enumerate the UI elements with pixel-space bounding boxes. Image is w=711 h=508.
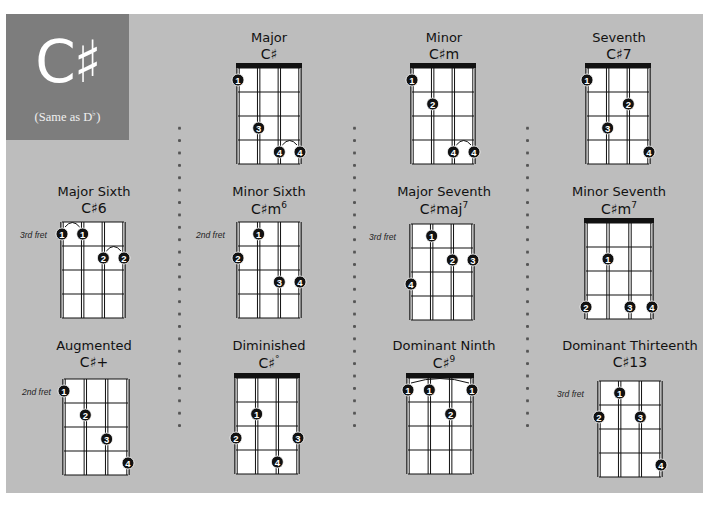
finger-number: 1 [235,75,241,86]
finger-number: 4 [297,147,303,158]
chord-name: Seventh [592,30,646,45]
chord-name: Dominant Thirteenth [562,338,698,353]
chord-symbol: C♯+ [80,354,108,370]
chord-name: Major [251,30,287,45]
finger-number: 4 [658,460,664,471]
fretboard: 1234 [582,63,654,169]
finger-number: 3 [638,412,643,423]
finger-number: 1 [59,229,65,240]
key-title: C♯ [6,32,129,92]
chord-name: Diminished [232,338,305,353]
column-divider-2 [353,122,356,436]
finger-number: 4 [471,147,477,158]
column-divider-1 [178,122,181,436]
finger-number: 1 [617,388,623,399]
fret-position-label: 2nd fret [196,230,225,240]
key-title-box: C♯ (Same as D♭) [6,14,129,140]
finger-number: 1 [584,75,590,86]
chord-name: Major Sixth [57,184,130,199]
finger-number: 4 [125,458,131,469]
fret-position-label: 3rd fret [20,230,47,240]
chord-name: Minor Sixth [232,184,305,199]
finger-number: 1 [254,409,260,420]
finger-number: 3 [295,433,300,444]
chord-symbol: C♯9 [433,354,455,371]
finger-number: 2 [101,253,106,264]
finger-number: 3 [605,123,610,134]
chord-name: Dominant Ninth [393,338,496,353]
chord-symbol: C♯13 [613,354,647,370]
finger-number: 4 [451,147,457,158]
finger-number: 1 [409,75,415,86]
fret-position-label: 3rd fret [557,389,584,399]
finger-number: 2 [233,433,238,444]
finger-number: 3 [104,434,109,445]
chord-name: Minor [426,30,462,45]
finger-number: 1 [256,229,262,240]
finger-number: 4 [646,147,652,158]
finger-number: 1 [469,385,475,396]
fretboard: 1344 [233,63,305,169]
finger-number: 2 [448,409,453,420]
chord-symbol: C♯° [258,354,279,371]
fretboard: 1244 [407,63,479,169]
finger-number: 3 [256,123,261,134]
finger-number: 3 [470,255,475,266]
column-divider-3 [526,122,529,436]
finger-number: 2 [430,99,435,110]
fretboard: 1112 [403,373,477,479]
fretboard: 1234 [59,374,133,480]
fretboard: 1234 [233,217,305,323]
finger-number: 4 [649,302,655,313]
chord-symbol: C♯ [261,46,278,62]
chord-name: Major Seventh [397,184,491,199]
chord-symbol: C♯maj7 [420,200,468,217]
finger-number: 1 [427,385,433,396]
fretboard: 1234 [581,218,657,324]
finger-number: 4 [277,147,283,158]
finger-number: 4 [408,279,414,290]
finger-number: 2 [83,410,88,421]
finger-number: 2 [121,253,126,264]
finger-number: 4 [275,457,281,468]
finger-number: 2 [450,255,455,266]
finger-number: 1 [61,386,67,397]
finger-number: 1 [605,254,611,265]
fretboard: 1234 [406,219,478,325]
chord-name: Minor Seventh [572,184,666,199]
finger-number: 2 [626,99,631,110]
finger-number: 3 [277,277,282,288]
finger-number: 3 [627,302,632,313]
fret-position-label: 2nd fret [22,387,51,397]
fretboard: 1122 [57,217,129,323]
finger-number: 2 [596,412,601,423]
chord-symbol: C♯6 [81,200,106,216]
finger-number: 1 [405,385,411,396]
finger-number: 1 [429,231,435,242]
chord-symbol: C♯m6 [251,200,287,217]
chord-symbol: C♯m7 [601,200,637,217]
finger-number: 1 [80,229,86,240]
fret-position-label: 3rd fret [369,232,396,242]
finger-number: 2 [583,302,588,313]
key-subtitle: (Same as D♭) [6,109,129,125]
fretboard: 1234 [594,376,666,482]
chord-name: Augmented [56,338,132,353]
chord-symbol: C♯7 [606,46,631,62]
chord-symbol: C♯m [429,46,459,62]
fretboard: 1234 [231,373,303,479]
finger-number: 2 [235,253,240,264]
finger-number: 4 [297,277,303,288]
